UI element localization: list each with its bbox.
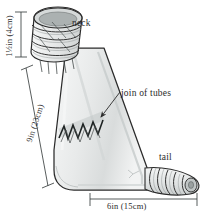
tail-group bbox=[145, 167, 199, 195]
tube-illustration bbox=[0, 0, 208, 219]
label-neck: neck bbox=[72, 18, 91, 28]
diagram-canvas: neck join of tubes tail 6in (15cm) 1½in … bbox=[0, 0, 208, 219]
label-neck-diameter: 1½in (4cm) bbox=[4, 15, 14, 57]
label-tail: tail bbox=[159, 152, 172, 162]
label-base-width: 6in (15cm) bbox=[107, 201, 147, 211]
dimension-neck-diameter bbox=[15, 12, 27, 57]
label-join-of-tubes: join of tubes bbox=[121, 88, 171, 98]
tail-tip-inner bbox=[188, 182, 193, 189]
